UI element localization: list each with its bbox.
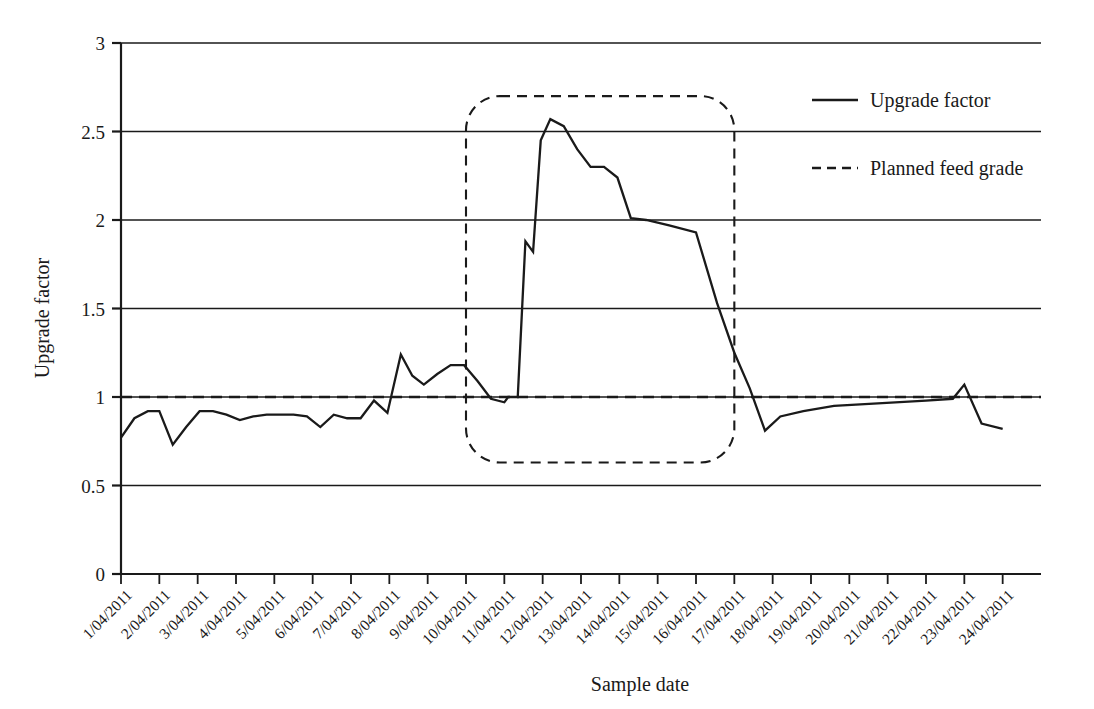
upgrade-factor-line-chart: 00.511.522.53 1/04/20112/04/20113/04/201…	[0, 0, 1094, 709]
x-axis-title: Sample date	[591, 673, 689, 696]
legend-label-upgrade-factor: Upgrade factor	[870, 89, 991, 112]
y-axis-tick-label: 1	[96, 387, 106, 408]
chart-figure: 00.511.522.53 1/04/20112/04/20113/04/201…	[0, 0, 1094, 709]
y-axis-tick-label: 0.5	[81, 476, 105, 497]
y-axis-tick-label: 0	[96, 564, 106, 585]
legend-label-planned-feed-grade: Planned feed grade	[870, 157, 1023, 180]
y-axis-tick-label: 2	[96, 210, 106, 231]
y-axis-title: Upgrade factor	[31, 257, 54, 378]
y-axis-tick-label: 2.5	[81, 122, 105, 143]
y-axis-tick-label: 1.5	[81, 299, 105, 320]
y-axis-tick-label: 3	[96, 33, 106, 54]
